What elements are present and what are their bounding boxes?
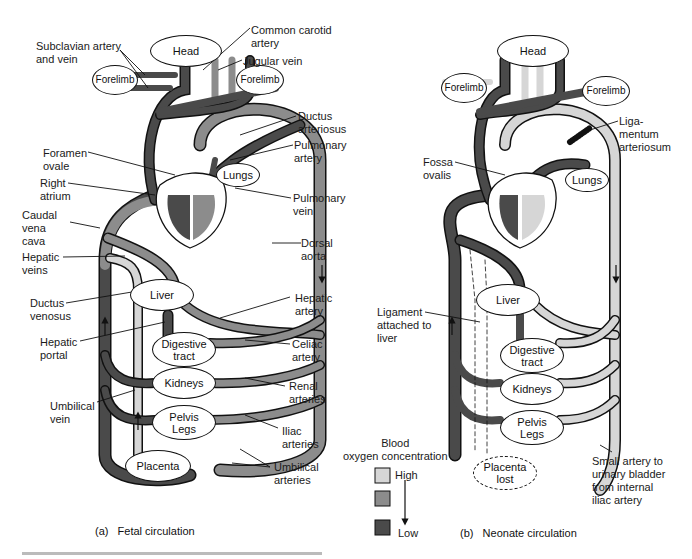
label-caudal-vena-cava: Caudal vena cava: [22, 209, 57, 248]
organ-pelvis-legs: Pelvis Legs: [152, 405, 216, 440]
organ-head: Head: [150, 35, 222, 67]
label-fossa-ovalis: Fossa ovalis: [423, 156, 453, 182]
fetal-heart: [156, 173, 226, 248]
organ-forelimb-left: Forelimb: [441, 73, 487, 103]
label-pulmonary-vein: Pulmonary vein: [293, 192, 346, 218]
organ-pelvis-legs: Pelvis Legs: [500, 410, 564, 445]
organ-lungs: Lungs: [565, 168, 609, 192]
organ-digestive: Digestive tract: [500, 338, 564, 373]
legend-title: Blood oxygen concentration: [343, 437, 448, 463]
organ-forelimb-left: Forelimb: [92, 65, 138, 95]
label-ligamentum-arteriosum: Liga- mentum arteriosum: [619, 115, 671, 154]
label-dorsal-aorta: Dorsal aorta: [301, 237, 333, 263]
label-iliac-arteries: Iliac arteries: [282, 425, 319, 451]
label-right-atrium: Right atrium: [40, 177, 71, 203]
caption-fetal: (a) Fetal circulation: [95, 525, 195, 537]
label-ductus-venosus: Ductus venosus: [30, 297, 71, 323]
organ-liver: Liver: [476, 284, 540, 316]
organ-kidneys: Kidneys: [152, 367, 216, 399]
label-celiac-artery: Celiac artery: [292, 338, 323, 364]
organ-forelimb-right: Forelimb: [582, 76, 630, 106]
organ-lungs: Lungs: [216, 163, 260, 187]
label-carotid: Common carotid artery: [251, 24, 332, 50]
caption-neonate: (b) Neonate circulation: [460, 527, 577, 539]
label-umbilical-arteries: Umbilical arteries: [274, 461, 319, 487]
organ-placenta: Placenta: [125, 450, 191, 482]
organ-liver: Liver: [130, 279, 194, 311]
neonate-heart: [488, 173, 556, 248]
label-foramen-ovale: Foramen ovale: [43, 147, 87, 173]
organ-head: Head: [497, 35, 569, 67]
cropped-figure-caption-bar: [22, 552, 322, 555]
label-pulmonary-artery: Pulmonary artery: [294, 139, 347, 165]
organ-forelimb-right: Forelimb: [236, 65, 284, 95]
label-hepatic-portal: Hepatic portal: [40, 336, 77, 362]
organ-kidneys: Kidneys: [500, 373, 564, 405]
organ-placenta-lost: Placenta lost: [473, 456, 537, 490]
label-subclavian: Subclavian artery and vein: [36, 40, 121, 66]
label-jugular: Jugular vein: [243, 55, 302, 68]
legend-low: Low: [398, 527, 418, 540]
label-small-artery: Small artery to urinary bladder from int…: [592, 455, 665, 507]
label-ligament-liver: Ligament attached to liver: [377, 306, 431, 345]
legend-high: High: [395, 469, 418, 482]
label-hepatic-veins: Hepatic veins: [22, 251, 59, 277]
label-hepatic-artery: Hepatic artery: [295, 292, 332, 318]
label-renal-arteries: Renal arteries: [289, 380, 326, 406]
organ-digestive: Digestive tract: [152, 332, 216, 367]
label-umbilical-vein: Umbilical vein: [50, 400, 95, 426]
label-ductus-arteriosus: Ductus arteriosus: [298, 110, 346, 136]
